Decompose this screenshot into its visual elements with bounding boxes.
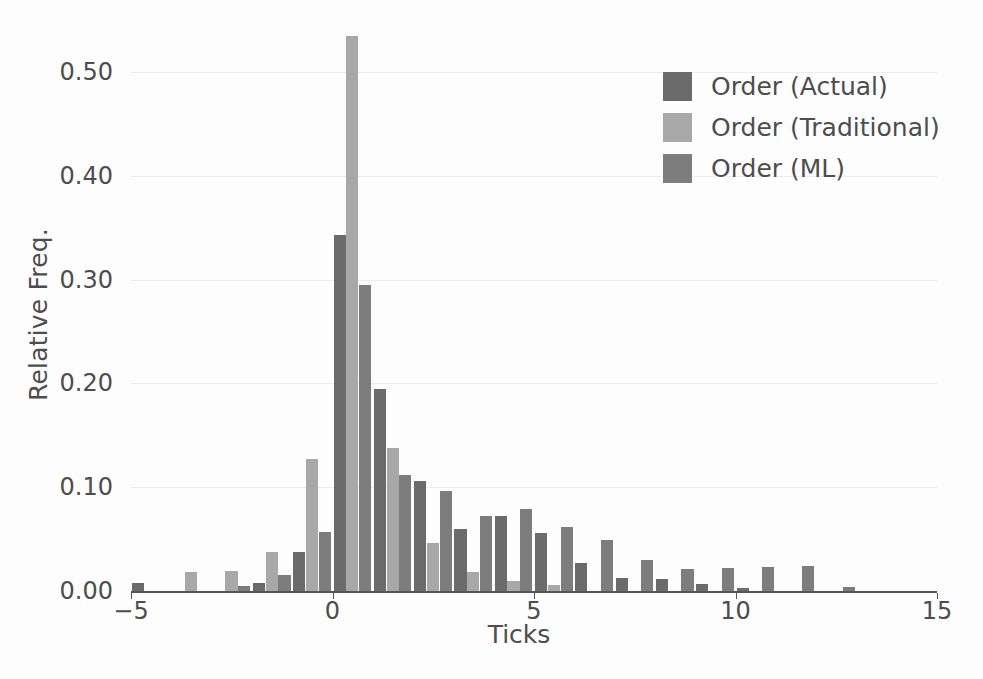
y-axis-tick-label: 0.00 [27, 577, 113, 605]
legend-item[interactable]: Order (Traditional) [663, 113, 940, 142]
bar [306, 459, 318, 591]
legend-item-label: Order (Traditional) [711, 113, 940, 142]
bar [253, 583, 265, 591]
legend-item[interactable]: Order (ML) [663, 154, 940, 183]
chart-legend: Order (Actual)Order (Traditional)Order (… [663, 72, 940, 183]
bar [696, 584, 708, 591]
legend-item-label: Order (ML) [711, 154, 845, 183]
bar [681, 569, 693, 591]
bar [334, 235, 346, 591]
bar [293, 552, 305, 591]
y-axis-tick-label: 0.20 [27, 369, 113, 397]
histogram-figure: Relative Freq. 0.000.100.200.300.400.50 … [0, 0, 983, 679]
bar [359, 285, 371, 591]
y-axis-tick-label: 0.10 [27, 473, 113, 501]
bar [656, 579, 668, 591]
bar [374, 389, 386, 591]
bar [427, 543, 439, 591]
legend-item[interactable]: Order (Actual) [663, 72, 940, 101]
y-axis-tick-labels: 0.000.100.200.300.400.50 [27, 20, 113, 591]
bar [762, 567, 774, 591]
bar [266, 552, 278, 591]
legend-swatch-icon [663, 113, 692, 142]
bar [520, 509, 532, 591]
bar [535, 533, 547, 591]
bar [601, 540, 613, 591]
legend-item-label: Order (Actual) [711, 72, 888, 101]
y-axis-tick-label: 0.50 [27, 58, 113, 86]
bar [467, 572, 479, 591]
bar [387, 448, 399, 591]
bar [346, 36, 358, 591]
bar [440, 491, 452, 591]
bar [722, 568, 734, 591]
bar [319, 532, 331, 591]
bar [575, 563, 587, 591]
bar [495, 516, 507, 591]
bar [561, 527, 573, 591]
bar [480, 516, 492, 591]
x-axis-title: Ticks [0, 620, 983, 649]
legend-swatch-icon [663, 72, 692, 101]
bar [507, 581, 519, 591]
y-axis-tick-label: 0.30 [27, 266, 113, 294]
y-axis-tick-label: 0.40 [27, 162, 113, 190]
bar [399, 475, 411, 591]
bar [132, 583, 144, 591]
bar [414, 481, 426, 591]
bar [802, 566, 814, 591]
bar [185, 572, 197, 591]
bar [616, 578, 628, 591]
bar [641, 560, 653, 591]
bar [454, 529, 466, 591]
bar [278, 575, 290, 591]
legend-swatch-icon [663, 154, 692, 183]
bar [225, 571, 237, 591]
